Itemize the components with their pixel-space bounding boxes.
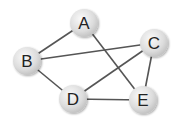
node-a-label: A [78,14,90,33]
node-e-label: E [137,91,148,110]
node-c: C [140,29,168,57]
edge-a-e [84,23,143,100]
node-b-label: B [21,52,32,71]
edge-b-c [27,43,154,61]
node-d-label: D [67,90,79,109]
node-b: B [13,47,41,75]
node-c-label: C [148,34,160,53]
graph-diagram: A B C D E [0,0,180,126]
node-d: D [59,85,87,113]
node-a: A [70,9,98,37]
nodes: A B C D E [13,9,168,114]
node-e: E [129,86,157,114]
